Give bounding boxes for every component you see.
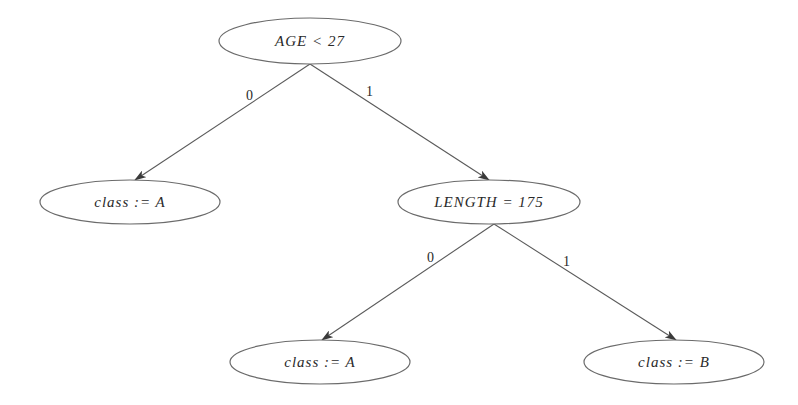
edge-line xyxy=(310,64,489,180)
edge-label-1: 1 xyxy=(366,84,373,99)
node-leaf-class-a-left: class := A xyxy=(40,180,220,224)
edge-length-to-leaf-a: 0 xyxy=(322,224,494,340)
nodes: AGE < 27 class := A LENGTH = 175 class :… xyxy=(40,18,764,384)
edge-label-0: 0 xyxy=(246,88,253,103)
node-label: LENGTH = 175 xyxy=(433,194,544,210)
edge-length-to-leaf-b: 1 xyxy=(494,224,676,340)
node-label: AGE < 27 xyxy=(274,33,345,49)
node-label: class := B xyxy=(638,354,710,370)
decision-tree-diagram: 0 1 0 1 AGE < 27 class := A LENGTH = 175 xyxy=(0,0,798,405)
node-leaf-class-a-bottom: class := A xyxy=(230,340,410,384)
edge-root-to-length: 1 xyxy=(310,64,489,180)
edge-root-to-left-leaf: 0 xyxy=(135,64,310,180)
node-length: LENGTH = 175 xyxy=(398,180,580,224)
node-label: class := A xyxy=(94,194,166,210)
edge-line xyxy=(322,224,494,340)
node-label: class := A xyxy=(284,354,356,370)
node-leaf-class-b: class := B xyxy=(584,340,764,384)
node-root-age: AGE < 27 xyxy=(219,18,401,64)
edge-label-1: 1 xyxy=(563,254,570,269)
edge-label-0: 0 xyxy=(427,250,434,265)
edge-line xyxy=(135,64,310,180)
edge-line xyxy=(494,224,676,340)
